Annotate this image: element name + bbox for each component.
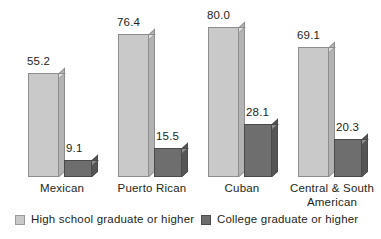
legend: High school graduate or higher College g… bbox=[0, 213, 381, 233]
bar-light[interactable] bbox=[208, 27, 239, 177]
bar-dark[interactable] bbox=[64, 160, 92, 177]
plot-area: 55.2 9.1 76.4 15.5 bbox=[0, 0, 381, 185]
value-label-light: 69.1 bbox=[297, 29, 320, 42]
category-label-line: Mexican bbox=[22, 182, 102, 196]
legend-swatch-icon bbox=[201, 215, 211, 225]
value-label-light: 76.4 bbox=[117, 16, 140, 29]
legend-label: College graduate or higher bbox=[217, 213, 358, 226]
bar-group: 69.1 20.3 bbox=[292, 0, 372, 185]
category-label-mexican: Mexican bbox=[22, 182, 102, 196]
value-label-light: 55.2 bbox=[27, 55, 50, 68]
category-label-line: American bbox=[283, 196, 381, 210]
bar-group: 80.0 28.1 bbox=[202, 0, 282, 185]
bar-front-face bbox=[154, 148, 182, 177]
bar-front-face bbox=[208, 27, 239, 177]
category-label-cuban: Cuban bbox=[202, 182, 282, 196]
bar-front-face bbox=[118, 34, 149, 177]
category-label-line: Cuban bbox=[202, 182, 282, 196]
bar-front-face bbox=[28, 73, 59, 177]
category-label-line: Central & South bbox=[283, 182, 381, 196]
bar-light[interactable] bbox=[298, 47, 329, 177]
legend-item-college[interactable]: College graduate or higher bbox=[201, 213, 358, 226]
value-label-light: 80.0 bbox=[207, 9, 230, 22]
bar-dark[interactable] bbox=[154, 148, 182, 177]
legend-item-high-school[interactable]: High school graduate or higher bbox=[15, 213, 194, 226]
value-label-dark: 28.1 bbox=[246, 106, 269, 119]
bar-front-face bbox=[244, 124, 272, 177]
value-label-dark: 20.3 bbox=[336, 121, 359, 134]
bar-front-face bbox=[298, 47, 329, 177]
value-label-dark: 9.1 bbox=[66, 142, 83, 155]
bar-light[interactable] bbox=[28, 73, 59, 177]
bar-dark[interactable] bbox=[334, 139, 362, 177]
bar-front-face bbox=[64, 160, 92, 177]
bar-group: 55.2 9.1 bbox=[22, 0, 102, 185]
value-label-dark: 15.5 bbox=[156, 130, 179, 143]
legend-swatch-icon bbox=[15, 215, 25, 225]
category-label-central-south-american: Central & South American bbox=[283, 182, 381, 209]
bar-front-face bbox=[334, 139, 362, 177]
bar-dark[interactable] bbox=[244, 124, 272, 177]
category-label-puerto-rican: Puerto Rican bbox=[108, 182, 196, 196]
legend-label: High school graduate or higher bbox=[31, 213, 194, 226]
bar-group: 76.4 15.5 bbox=[112, 0, 192, 185]
category-label-line: Puerto Rican bbox=[108, 182, 196, 196]
bar-side-face bbox=[92, 155, 98, 177]
bar-chart: 55.2 9.1 76.4 15.5 bbox=[0, 0, 381, 239]
bar-light[interactable] bbox=[118, 34, 149, 177]
